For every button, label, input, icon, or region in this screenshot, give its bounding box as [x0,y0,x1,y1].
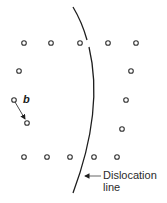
atom [115,155,120,160]
atom [92,155,97,160]
atom [45,155,50,160]
atom [12,98,17,103]
atoms-bottom-row [22,155,120,160]
atom [120,127,125,132]
dislocation-label-line1: Dislocation [103,169,157,181]
dislocation-line-upper [73,7,87,40]
dislocation-line-lower [73,47,94,193]
atom [129,69,134,74]
atom [134,41,139,46]
atom [124,98,129,103]
atom [78,41,83,46]
dislocation-label-line2: line [103,181,157,193]
atom [25,121,30,126]
dislocation-line-label: Dislocation line [103,169,157,193]
atom [106,41,111,46]
atoms-right-column [120,69,134,132]
atom [17,69,22,74]
atom [22,155,27,160]
atoms-top-row [22,41,139,46]
burgers-vector-label: b [23,93,30,105]
atom [49,41,54,46]
atom [22,41,27,46]
atom [68,155,73,160]
